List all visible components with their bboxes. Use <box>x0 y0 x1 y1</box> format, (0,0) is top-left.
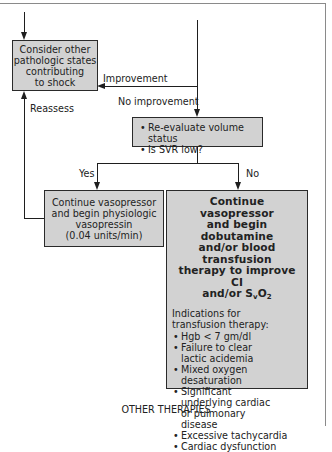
node-line: (0.04 units/min) <box>45 230 163 241</box>
title-prefix: and/or S <box>202 287 253 299</box>
list-item: Failure to clear lactic acidemia <box>172 342 302 364</box>
title-o: O <box>258 287 267 299</box>
connector-reassess-vertical <box>24 98 25 219</box>
connector-improvement <box>104 86 198 87</box>
node-reevaluate: Re-evaluate volume status Is SVR low? <box>132 117 263 147</box>
connector-branch-vertical <box>197 147 198 164</box>
node-line: to shock <box>13 77 97 88</box>
node-vasopressin: Continue vasopressor and begin physiolog… <box>44 190 164 247</box>
arrow-no <box>235 182 241 190</box>
footer-other-therapies: OTHER THERAPIES <box>0 404 332 415</box>
connector-top-left <box>24 12 25 33</box>
label-yes: Yes <box>79 168 95 179</box>
node-title: Continue vasopressor and begin dobutamin… <box>172 196 302 304</box>
list-item: Mixed oxygen desaturation <box>172 364 302 386</box>
node-line: and begin physiologic <box>45 208 163 219</box>
list-item: Is SVR low? <box>139 144 258 155</box>
arrow-reassess <box>21 91 27 99</box>
label-improvement: Improvement <box>103 73 168 84</box>
arrow-into-consider <box>21 32 27 40</box>
node-line: contributing <box>13 66 97 77</box>
title-line-svo2: and/or SvO2 <box>172 288 302 304</box>
indications-heading: Indications for transfusion therapy: <box>172 308 302 330</box>
title-line: Continue vasopressor <box>172 196 302 219</box>
frame-top-border <box>0 3 326 4</box>
subscript-2: 2 <box>267 293 272 301</box>
title-line: and begin dobutamine <box>172 219 302 242</box>
label-no-improvement: No improvement <box>118 96 198 107</box>
node-dobutamine-transfusion: Continue vasopressor and begin dobutamin… <box>166 190 308 389</box>
frame-right-border <box>325 3 326 426</box>
node-line: Consider other <box>13 44 97 55</box>
reevaluate-list: Re-evaluate volume status Is SVR low? <box>139 122 258 155</box>
list-item: Cardiac dysfunction <box>172 441 302 452</box>
title-line: therapy to improve CI <box>172 265 302 288</box>
node-line: pathologic states <box>13 55 97 66</box>
label-reassess: Reassess <box>30 103 74 114</box>
title-line: and/or blood transfusion <box>172 242 302 265</box>
connector-no <box>238 163 239 183</box>
list-item: Re-evaluate volume status <box>139 122 258 144</box>
label-no: No <box>246 168 259 179</box>
node-consider-other-states: Consider other pathologic states contrib… <box>12 40 98 91</box>
node-line: vasopressin <box>45 219 163 230</box>
arrow-into-reevaluate <box>194 109 200 117</box>
list-item: Excessive tachycardia <box>172 430 302 441</box>
connector-reassess-horizontal <box>24 218 45 219</box>
arrow-yes <box>94 182 100 190</box>
indications-list: Hgb < 7 gm/dl Failure to clear lactic ac… <box>172 331 302 452</box>
node-line: Continue vasopressor <box>45 197 163 208</box>
list-item: Hgb < 7 gm/dl <box>172 331 302 342</box>
connector-branch-horizontal <box>97 163 239 164</box>
connector-yes <box>97 163 98 183</box>
